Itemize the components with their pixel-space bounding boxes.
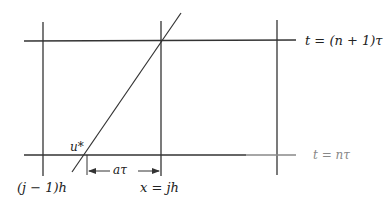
characteristic-diagram: t = (n + 1)τ t = nτ u* aτ (j − 1)h x = j… bbox=[0, 0, 391, 204]
time-level-n-plus-1 bbox=[24, 40, 296, 41]
label-grid-x-j-minus-1: (j − 1)h bbox=[17, 181, 67, 194]
arrowhead-right-icon bbox=[152, 168, 160, 174]
label-grid-x-j: x = jh bbox=[140, 181, 179, 194]
label-foot-point: u* bbox=[70, 141, 84, 153]
characteristic-line bbox=[72, 13, 181, 172]
label-displacement: aτ bbox=[113, 164, 127, 176]
label-time-n-plus-1: t = (n + 1)τ bbox=[305, 34, 383, 47]
grid-svg bbox=[0, 0, 391, 204]
arrowhead-left-icon bbox=[88, 168, 96, 174]
label-time-n: t = nτ bbox=[313, 149, 350, 161]
